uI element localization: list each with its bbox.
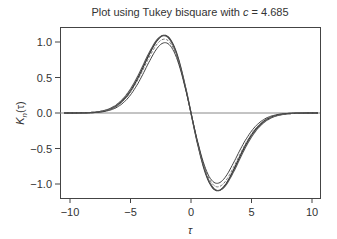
line-chart: 1.00.50.0−0.5−1.0 −10−50510 τ Kn(τ) bbox=[0, 0, 337, 239]
x-tick-label: 10 bbox=[306, 206, 318, 218]
x-tick-label: −10 bbox=[61, 206, 80, 218]
y-tick-label: 0.5 bbox=[37, 72, 52, 84]
y-tick-label: −1.0 bbox=[30, 178, 52, 190]
x-axis-label: τ bbox=[188, 224, 193, 236]
x-axis: −10−50510 bbox=[61, 198, 318, 218]
y-tick-label: −0.5 bbox=[30, 143, 52, 155]
y-tick-label: 0.0 bbox=[37, 107, 52, 119]
y-axis: 1.00.50.0−0.5−1.0 bbox=[30, 36, 60, 190]
x-tick-label: 0 bbox=[188, 206, 194, 218]
y-axis-label: Kn(τ) bbox=[14, 101, 29, 124]
y-tick-label: 1.0 bbox=[37, 36, 52, 48]
x-tick-label: 5 bbox=[248, 206, 254, 218]
x-tick-label: −5 bbox=[124, 206, 137, 218]
